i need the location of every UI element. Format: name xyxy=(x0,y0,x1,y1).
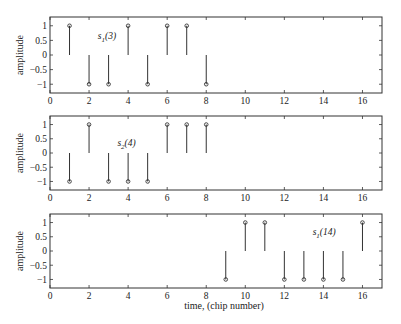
y-tick-label: 1 xyxy=(42,21,47,31)
y-tick-label: 0 xyxy=(42,246,47,256)
y-axis-label: amplitude xyxy=(14,230,25,271)
x-tick-label: 12 xyxy=(280,96,290,106)
stem-annotation: s1(14) xyxy=(313,227,336,240)
x-tick-label: 0 xyxy=(48,96,53,106)
y-tick-label: 1 xyxy=(42,120,47,130)
x-tick-label: 4 xyxy=(126,291,131,301)
x-tick-label: 8 xyxy=(204,193,209,203)
x-tick-label: 0 xyxy=(48,193,53,203)
subplot-3: 024681012141610.50−0.5−1amplitudes1(14)t… xyxy=(14,214,382,312)
x-tick-label: 14 xyxy=(319,96,329,106)
y-tick-label: −1 xyxy=(37,275,47,285)
y-tick-label: −0.5 xyxy=(30,65,47,75)
subplot-1: 024681012141610.50−0.5−1amplitudes1(3) xyxy=(14,17,382,106)
stem-annotation: s2(4) xyxy=(117,138,135,151)
x-tick-label: 6 xyxy=(165,193,170,203)
x-tick-label: 16 xyxy=(358,291,368,301)
x-tick-label: 6 xyxy=(165,96,170,106)
y-tick-label: −0.5 xyxy=(30,261,47,271)
y-tick-label: 1 xyxy=(42,218,47,228)
y-tick-label: −1 xyxy=(37,177,47,187)
x-tick-label: 0 xyxy=(48,291,53,301)
x-tick-label: 14 xyxy=(319,291,329,301)
x-tick-label: 8 xyxy=(204,96,209,106)
x-tick-label: 16 xyxy=(358,96,368,106)
x-tick-label: 2 xyxy=(87,291,92,301)
y-tick-label: 0 xyxy=(42,50,47,60)
y-tick-label: 0.5 xyxy=(35,232,47,242)
x-tick-label: 2 xyxy=(87,193,92,203)
stem-plot-figure: 024681012141610.50−0.5−1amplitudes1(3)02… xyxy=(0,0,401,324)
x-tick-label: 4 xyxy=(126,96,131,106)
axes-frame xyxy=(50,17,382,93)
x-tick-label: 10 xyxy=(241,193,251,203)
y-tick-label: 0.5 xyxy=(35,134,47,144)
y-tick-label: 0.5 xyxy=(35,36,47,46)
stem-annotation: s1(3) xyxy=(98,31,116,44)
y-tick-label: 0 xyxy=(42,148,47,158)
x-axis-label: time, (chip number) xyxy=(184,300,264,312)
x-tick-label: 6 xyxy=(165,291,170,301)
x-tick-label: 12 xyxy=(280,291,290,301)
x-tick-label: 10 xyxy=(241,96,251,106)
x-tick-label: 2 xyxy=(87,96,92,106)
subplot-2: 024681012141610.50−0.5−1amplitudes2(4) xyxy=(14,116,382,203)
y-tick-label: −0.5 xyxy=(30,163,47,173)
x-tick-label: 12 xyxy=(280,193,290,203)
axes-frame xyxy=(50,116,382,190)
y-tick-label: −1 xyxy=(37,80,47,90)
y-axis-label: amplitude xyxy=(14,34,25,75)
x-tick-label: 4 xyxy=(126,193,131,203)
axes-frame xyxy=(50,214,382,288)
y-axis-label: amplitude xyxy=(14,132,25,173)
x-tick-label: 14 xyxy=(319,193,329,203)
x-tick-label: 16 xyxy=(358,193,368,203)
